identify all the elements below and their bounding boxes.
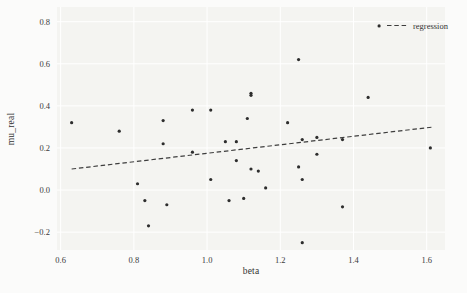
legend: regression <box>387 21 448 30</box>
data-point <box>378 24 381 27</box>
data-point <box>264 186 267 189</box>
data-point <box>429 146 432 149</box>
data-point <box>162 119 165 122</box>
plot-area <box>57 7 445 250</box>
data-point <box>162 142 165 145</box>
x-tick-label: 0.6 <box>55 255 66 265</box>
data-point <box>249 167 252 170</box>
plot-canvas: 0.60.81.01.21.41.6−0.20.00.20.40.60.8 <box>0 0 467 293</box>
data-point <box>315 153 318 156</box>
x-axis-label: beta <box>57 266 445 276</box>
y-tick-label: 0.2 <box>39 143 50 153</box>
data-point <box>341 205 344 208</box>
x-tick-label: 0.8 <box>129 255 140 265</box>
data-point <box>147 224 150 227</box>
data-point <box>143 199 146 202</box>
data-point <box>297 58 300 61</box>
data-point <box>191 108 194 111</box>
data-point <box>301 178 304 181</box>
data-point <box>286 121 289 124</box>
data-point <box>224 140 227 143</box>
data-point <box>242 197 245 200</box>
y-tick-label: 0.0 <box>39 185 50 195</box>
data-point <box>249 94 252 97</box>
x-tick-label: 1.6 <box>421 255 432 265</box>
data-point <box>341 138 344 141</box>
data-point <box>257 170 260 173</box>
data-point <box>191 151 194 154</box>
data-point <box>301 241 304 244</box>
data-point <box>209 108 212 111</box>
x-tick-label: 1.4 <box>348 255 359 265</box>
data-point <box>227 199 230 202</box>
x-tick-label: 1.2 <box>275 255 286 265</box>
data-point <box>235 159 238 162</box>
scatter-figure: 0.60.81.01.21.41.6−0.20.00.20.40.60.8 be… <box>0 0 467 293</box>
data-point <box>70 121 73 124</box>
x-tick-label: 1.0 <box>202 255 213 265</box>
data-point <box>136 182 139 185</box>
data-point <box>246 117 249 120</box>
data-point <box>367 96 370 99</box>
data-point <box>165 203 168 206</box>
legend-label-regression: regression <box>413 21 448 31</box>
y-tick-label: 0.4 <box>39 101 50 111</box>
data-point <box>209 178 212 181</box>
data-point <box>118 130 121 133</box>
y-tick-label: −0.2 <box>35 227 50 237</box>
data-point <box>315 136 318 139</box>
y-axis-label: mu_real <box>6 113 16 146</box>
y-tick-label: 0.8 <box>39 17 50 27</box>
data-point <box>235 140 238 143</box>
data-point <box>301 138 304 141</box>
data-point <box>297 165 300 168</box>
y-tick-label: 0.6 <box>39 59 50 69</box>
dashed-line-icon <box>387 23 408 28</box>
